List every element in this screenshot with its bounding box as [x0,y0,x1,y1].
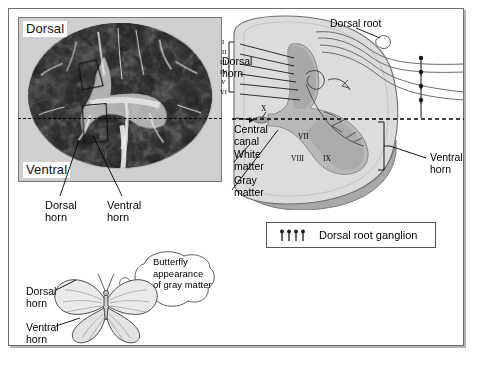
photo-callout-ventral-horn-line2: horn [107,211,141,223]
label-ventral-horn-diagram-line1: Ventral [430,152,463,164]
lamina-label-I: I [222,39,224,46]
photo-label-dorsal: Dorsal [23,21,67,37]
photo-callout-ventral-horn: Ventral horn [107,199,141,223]
butterfly-label-dorsal-horn: Dorsal horn [26,286,56,309]
label-dorsal-horn-diagram: Dorsal horn [222,56,252,79]
lamina-label-IX: IX [323,154,331,163]
butterfly-label-ventral-horn-line1: Ventral [26,322,59,334]
leader-butterfly-ventral-horn [56,318,80,326]
butterfly-label-dorsal-horn-line1: Dorsal [26,286,56,298]
label-ventral-horn-diagram: Ventral horn [430,152,463,175]
label-dorsal-horn-diagram-line1: Dorsal [222,56,252,68]
label-dorsal-horn-diagram-line2: horn [222,68,252,80]
thought-bubble-text-line1: Butterfly [153,256,215,268]
butterfly-label-dorsal-horn-line2: horn [26,298,56,310]
ganglion-icon [294,230,298,242]
label-white-matter-line2: matter [234,161,264,173]
butterfly-label-ventral-horn: Ventral horn [26,322,59,345]
butterfly-wing-upper-right [108,280,157,315]
spinal-cord-photomicrograph-panel: Dorsal Ventral [18,17,222,182]
legend-ganglion-symbol-group [279,228,311,244]
butterfly-wing-upper-left [55,280,104,315]
ganglion-icon [280,230,284,242]
thought-bubble-text: Butterfly appearance of gray matter [153,256,215,291]
label-white-matter: White matter [234,149,264,172]
label-dorsal-root: Dorsal root [330,18,381,30]
dorsal-root-ganglion-marker [419,98,423,118]
photo-callout-dorsal-horn-line2: horn [45,211,77,223]
spinal-cord-photo-image [19,18,221,181]
photo-callout-dorsal-horn-line1: Dorsal [45,199,77,211]
legend-box: Dorsal root ganglion [266,222,436,248]
thought-bubble-text-line3: of gray matter [153,279,215,291]
thought-bubble-text-line2: appearance [153,268,215,280]
label-gray-matter-line1: Gray [234,175,264,187]
ganglion-icon [287,230,291,242]
lamina-label-VI: VI [220,89,227,96]
lamina-label-V: V [221,79,226,86]
label-central-canal-line2: canal [234,136,268,148]
label-white-matter-line1: White [234,149,264,161]
label-central-canal-line1: Central [234,124,268,136]
figure-root: Dorsal Ventral Dorsal horn Ventral horn [0,0,486,369]
lamina-label-VIII: VIII [291,154,304,163]
photo-label-ventral: Ventral [23,162,70,178]
butterfly-label-ventral-horn-line2: horn [26,334,59,346]
dorsal-root-ganglion-markers [419,56,423,118]
photo-callout-dorsal-horn: Dorsal horn [45,199,77,223]
label-ventral-horn-diagram-line2: horn [430,164,463,176]
butterfly-head [103,290,108,295]
lamina-label-X: X [261,104,266,113]
label-gray-matter-line2: matter [234,187,264,199]
label-gray-matter: Gray matter [234,175,264,198]
lamina-label-VII: VII [298,132,308,141]
label-central-canal: Central canal [234,124,268,147]
ganglion-icon [301,230,305,242]
legend-label-dorsal-root-ganglion: Dorsal root ganglion [319,228,417,243]
photo-midline-dashed-divider [18,118,222,119]
butterfly-antennae [98,274,114,291]
photo-callout-ventral-horn-line1: Ventral [107,199,141,211]
